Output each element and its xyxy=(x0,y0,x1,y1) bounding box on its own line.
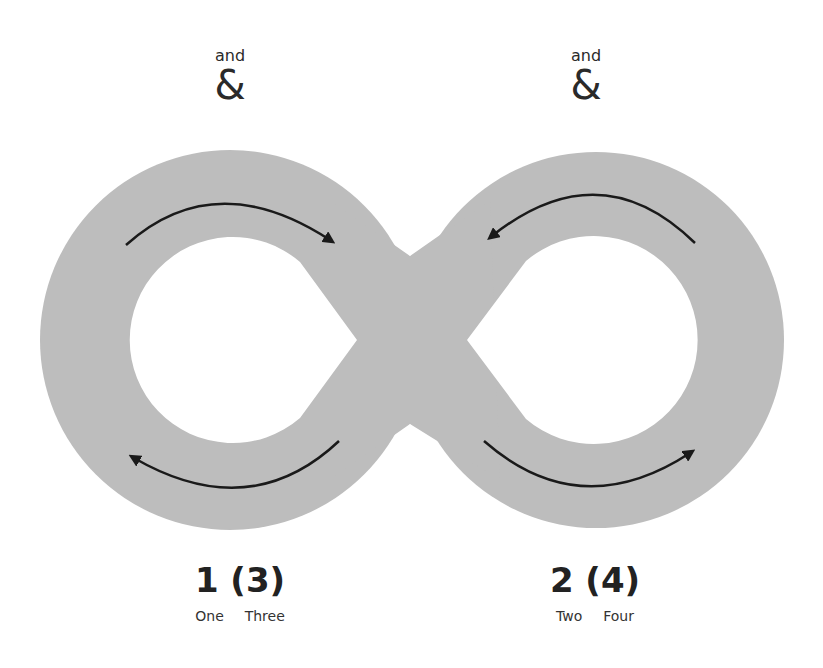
right-ampersand: & xyxy=(546,65,626,105)
right-bottom-labels: 2 (4) Two Four xyxy=(515,560,675,624)
infinity-loop-diagram xyxy=(0,0,823,668)
right-number-label: 2 (4) xyxy=(515,560,675,600)
left-words-label: One Three xyxy=(160,608,320,624)
left-number-label: 1 (3) xyxy=(160,560,320,600)
left-top-labels: and & xyxy=(190,46,270,105)
right-top-labels: and & xyxy=(546,46,626,105)
left-bottom-labels: 1 (3) One Three xyxy=(160,560,320,624)
left-ampersand: & xyxy=(190,65,270,105)
right-words-label: Two Four xyxy=(515,608,675,624)
